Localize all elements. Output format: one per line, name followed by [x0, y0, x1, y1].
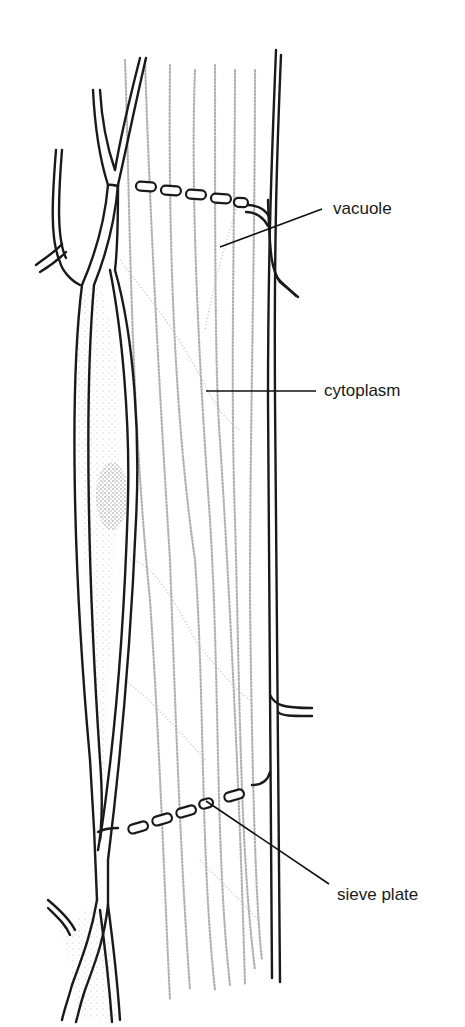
- label-cytoplasm: cytoplasm: [206, 381, 401, 400]
- sieve-plate-bottom: [127, 788, 245, 834]
- sieve-plate-top: [136, 181, 249, 207]
- label-text-sieve-plate: sieve plate: [337, 885, 418, 904]
- sieve-tube-diagram: vacuole cytoplasm sieve plate: [0, 0, 465, 1027]
- label-sieve-plate: sieve plate: [206, 801, 418, 904]
- label-text-cytoplasm: cytoplasm: [324, 381, 401, 400]
- nucleus: [96, 462, 128, 530]
- leader-line-sieve-plate: [206, 801, 329, 884]
- label-text-vacuole: vacuole: [333, 199, 392, 218]
